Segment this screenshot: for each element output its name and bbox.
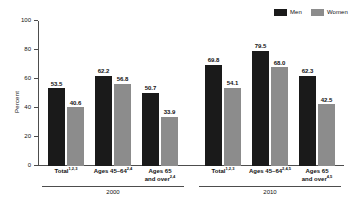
y-axis-tick-label: 100 <box>21 17 31 23</box>
bar-value-label: 53.5 <box>51 81 63 87</box>
group-label-2000: 2000 <box>106 189 119 195</box>
bar-value-label: 40.6 <box>70 100 82 106</box>
bar-value-label: 79.5 <box>255 43 267 49</box>
bar-2000-men-1: 62.2 <box>95 76 112 166</box>
group-label-2010: 2010 <box>263 189 276 195</box>
y-axis-tick-label: 0 <box>28 162 31 168</box>
legend-swatch-women-icon <box>311 9 324 16</box>
bar-2010-women-2: 42.5 <box>318 104 335 166</box>
bar-2000-women-0: 40.6 <box>67 107 84 166</box>
category-label: Total1,2,3 <box>212 168 235 176</box>
legend-label-women: Women <box>327 9 348 16</box>
bar-2000-women-2: 33.9 <box>161 117 178 166</box>
bar-2000-men-0: 53.5 <box>48 88 65 166</box>
y-axis-tick-label: 20 <box>24 133 31 139</box>
bar-value-label: 62.2 <box>98 68 110 74</box>
legend-item-men: Men <box>274 9 302 16</box>
x-axis-category-labels: Total1,2,3Ages 45–642,4Ages 65and over2,… <box>38 168 344 188</box>
bar-value-label: 69.8 <box>208 57 220 63</box>
bar-value-label: 56.8 <box>117 76 129 82</box>
category-label: Ages 65and over2,4 <box>145 168 176 183</box>
y-axis-tick-label: 80 <box>24 46 31 52</box>
x-axis-group-labels: 20002010 <box>38 186 344 204</box>
plot-area: 020406080100 53.540.662.256.850.733.969.… <box>38 21 344 166</box>
bar-2010-men-0: 69.8 <box>205 65 222 166</box>
bar-2000-women-1: 56.8 <box>114 84 131 166</box>
category-label: Ages 45–642,4 <box>94 168 133 176</box>
category-label: Total1,2,3 <box>55 168 78 176</box>
group-rule <box>42 186 184 187</box>
bar-2010-women-1: 68.0 <box>271 67 288 166</box>
bar-value-label: 62.3 <box>302 68 314 74</box>
bar-2010-men-2: 62.3 <box>299 76 316 166</box>
bar-2010-men-1: 79.5 <box>252 51 269 166</box>
bar-2000-men-2: 50.7 <box>142 93 159 167</box>
chart-legend: Men Women <box>274 9 348 16</box>
category-label: Ages 45–642,4,5 <box>249 168 291 176</box>
y-axis-tick-label: 40 <box>24 104 31 110</box>
group-rule <box>199 186 341 187</box>
bar-value-label: 42.5 <box>321 97 333 103</box>
chart-figure: Men Women Percent 020406080100 53.540.66… <box>0 0 354 204</box>
bar-2010-women-0: 54.1 <box>224 88 241 166</box>
bar-value-label: 54.1 <box>227 80 239 86</box>
bar-value-label: 50.7 <box>145 85 157 91</box>
y-axis-title: Percent <box>14 91 20 113</box>
bar-value-label: 33.9 <box>164 109 176 115</box>
bar-value-label: 68.0 <box>274 60 286 66</box>
y-axis-tick-label: 60 <box>24 75 31 81</box>
legend-label-men: Men <box>290 9 302 16</box>
legend-swatch-men-icon <box>274 9 287 16</box>
category-label: Ages 65and over4,5 <box>302 168 333 183</box>
legend-item-women: Women <box>311 9 348 16</box>
bars-layer: 53.540.662.256.850.733.969.854.179.568.0… <box>38 21 344 166</box>
